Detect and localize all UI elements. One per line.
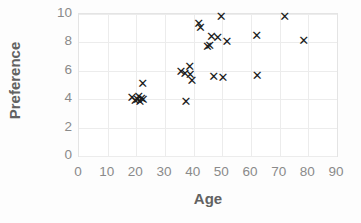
data-point-marker: ✕ bbox=[251, 30, 262, 41]
y-axis-tick-label: 4 bbox=[30, 91, 72, 105]
data-point-marker: ✕ bbox=[138, 94, 149, 105]
y-axis-tick-label: 6 bbox=[30, 63, 72, 77]
x-axis-title: Age bbox=[78, 190, 338, 207]
gridline-vertical bbox=[108, 14, 109, 156]
scatter-chart: Preference 0246810 ✕✕✕✕✕✕✕✕✕✕✕✕✕✕✕✕✕✕✕✕✕… bbox=[0, 0, 361, 223]
x-axis-tick-labels: 0102030405060708090 bbox=[0, 165, 361, 185]
y-axis-tick-label: 0 bbox=[30, 148, 72, 162]
data-point-marker: ✕ bbox=[252, 70, 263, 81]
y-axis-title-label: Preference bbox=[7, 41, 24, 119]
data-point-marker: ✕ bbox=[221, 36, 232, 47]
data-point-marker: ✕ bbox=[216, 11, 227, 22]
gridline-horizontal bbox=[79, 14, 337, 15]
data-point-marker: ✕ bbox=[137, 78, 148, 89]
y-axis-tick-label: 8 bbox=[30, 35, 72, 49]
plot-area: ✕✕✕✕✕✕✕✕✕✕✕✕✕✕✕✕✕✕✕✕✕✕✕✕✕✕✕✕ bbox=[78, 13, 338, 157]
y-axis-tick-label: 10 bbox=[30, 6, 72, 20]
gridline-horizontal bbox=[79, 99, 337, 100]
data-point-marker: ✕ bbox=[279, 11, 290, 22]
data-point-marker: ✕ bbox=[186, 75, 197, 86]
gridline-vertical bbox=[280, 14, 281, 156]
gridline-horizontal bbox=[79, 128, 337, 129]
x-axis-tick-label: 90 bbox=[316, 165, 356, 179]
y-axis-tick-labels: 0246810 bbox=[26, 0, 72, 223]
data-point-marker: ✕ bbox=[180, 96, 191, 107]
gridline-vertical bbox=[165, 14, 166, 156]
data-point-marker: ✕ bbox=[195, 22, 206, 33]
data-point-marker: ✕ bbox=[298, 35, 309, 46]
y-axis-tick-label: 2 bbox=[30, 120, 72, 134]
data-point-marker: ✕ bbox=[217, 72, 228, 83]
gridline-horizontal bbox=[79, 156, 337, 157]
